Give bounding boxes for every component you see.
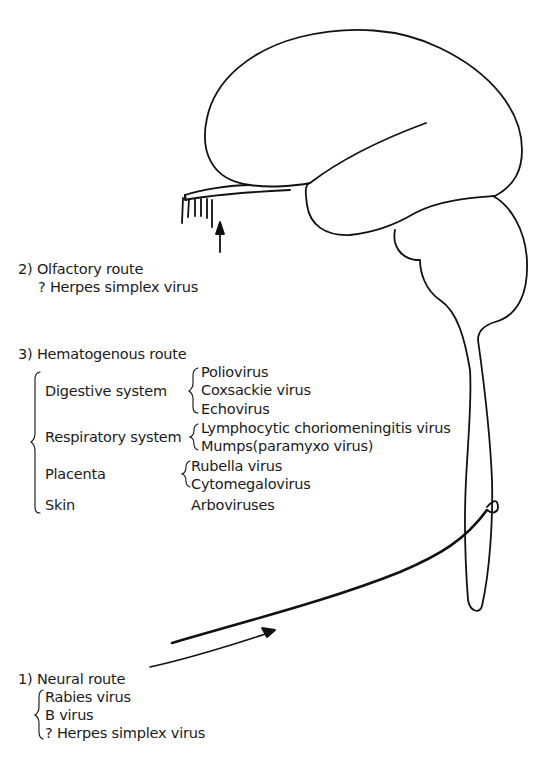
virus-lcmv: Lymphocytic choriomeningitis virus [201,419,451,437]
virus-arboviruses: Arboviruses [191,496,275,514]
virus-rubella: Rubella virus [191,457,282,475]
systems-brace [31,372,40,513]
system-respiratory: Respiratory system [45,428,182,446]
virus-poliovirus: Poliovirus [201,363,268,381]
system-skin: Skin [45,496,75,514]
virus-echovirus: Echovirus [201,400,270,418]
virus-b: B virus [45,706,93,724]
virus-mumps: Mumps(paramyxo virus) [201,437,373,455]
respiratory-brace [190,424,198,450]
system-digestive: Digestive system [45,382,167,400]
system-placenta: Placenta [45,465,106,483]
virus-coxsackie: Coxsackie virus [201,381,311,399]
virus-rabies: Rabies virus [45,688,131,706]
neural-route-title: 1) Neural route [18,670,125,688]
virus-cytomegalovirus: Cytomegalovirus [191,475,311,493]
placenta-brace [182,461,190,487]
digestive-brace [189,368,198,413]
virus-herpes-neural: ? Herpes simplex virus [45,724,205,742]
neural-brace [35,690,43,739]
